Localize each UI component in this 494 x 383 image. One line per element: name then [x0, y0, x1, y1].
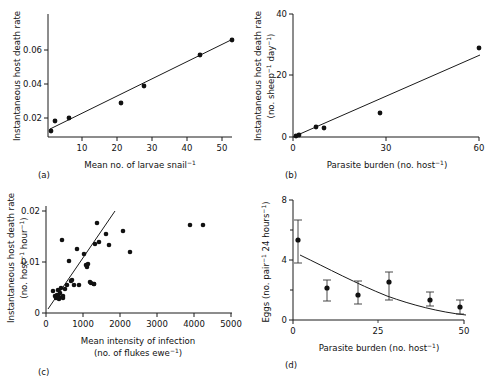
panel-d-datapoints [295, 237, 462, 309]
panel-a-ytick-1: 0.04 [23, 79, 42, 89]
panel-a-xtick-2: 30 [147, 143, 158, 153]
panel-a-ytick-0: 0.02 [23, 113, 42, 123]
panel-a-fit-line [50, 39, 233, 129]
panel-b-ylabel-l2c: ) [266, 34, 276, 37]
panel-c-xtick-4: 4000 [183, 319, 205, 329]
panel-d-ticklabels: 0 4 8 0 25 50 [282, 195, 470, 336]
panel-b-ytick-0: 0 [282, 132, 287, 142]
panel-c-ytick-0: 0 [35, 308, 40, 318]
panel-b: 0 20 40 0 30 60 Instantaneous host death… [247, 0, 494, 191]
panel-b-xlabel-end: ) [444, 160, 447, 170]
panel-a-ytick-2: 0.06 [23, 45, 42, 55]
panel-d-plot: 0 4 8 0 25 50 [247, 192, 494, 383]
panel-a-xtick-0: 10 [77, 143, 88, 153]
panel-b-ylabel-l2b: day [266, 46, 276, 65]
panel-c-ticklabels: 0 0.01 0.02 0 1000 2000 3000 4000 5000 [21, 206, 242, 329]
panel-b-ytick-1: 20 [276, 70, 287, 80]
panel-b-xlabel-sup: −1 [435, 159, 444, 166]
panel-d-ylabel: Eggs (no. pair−1 24 hours−1) [260, 201, 271, 322]
panel-b-ytick-2: 40 [276, 9, 287, 19]
panel-c-datapoints [51, 221, 206, 302]
panel-a: 0.02 0.04 0.06 10 20 30 40 50 Instantane… [0, 0, 247, 191]
panel-b-xtick-1: 30 [381, 143, 392, 153]
panel-d-ylabel-c: ) [261, 201, 271, 204]
panel-a-axes [44, 14, 232, 141]
panel-b-ylabel-line1: Instantaneous host death rate [253, 11, 263, 141]
panel-a-xlabel: Mean no. of larvae snail−1 [84, 159, 196, 170]
panel-b-xtick-2: 60 [474, 143, 485, 153]
panel-a-ylabel: Instantaneous host death rate [12, 11, 22, 141]
panel-b-ylabel-line2: (no. sheep−1 day−1) [265, 34, 276, 119]
panel-c-xtick-0: 0 [43, 319, 48, 329]
panel-a-plot: 0.02 0.04 0.06 10 20 30 40 50 Instantane… [0, 0, 247, 191]
panel-c-ytick-2: 0.02 [21, 206, 40, 216]
panel-a-xlabel-sup: −1 [187, 159, 196, 166]
panel-b-xlabel: Parasite burden (no. host−1) [327, 159, 447, 170]
panel-b-ylabel-sup1: −1 [265, 64, 272, 73]
panel-d-xtick-1: 25 [373, 326, 384, 336]
panel-c-plot: 0 0.01 0.02 0 1000 2000 3000 4000 5000 [0, 192, 247, 383]
panel-b-fit-line [293, 55, 480, 137]
panel-c-ylabel-l2b: hour [19, 229, 29, 252]
panel-d-xlabel-sup: −1 [427, 342, 436, 349]
panel-d-ytick-1: 4 [282, 255, 287, 265]
panel-b-ticklabels: 0 20 40 0 30 60 [276, 9, 484, 153]
panel-a-xtick-3: 40 [182, 143, 193, 153]
panel-d: 0 4 8 0 25 50 [247, 192, 494, 383]
panel-d-xtick-0: 0 [290, 326, 295, 336]
panel-c-ylabel-l2c: ) [19, 217, 29, 220]
panel-c-xtick-1: 1000 [72, 319, 94, 329]
panel-d-xlabel-end: ) [436, 343, 439, 353]
panel-d-errorbars [294, 220, 464, 314]
panel-d-xtick-2: 50 [459, 326, 470, 336]
panel-a-xtick-4: 50 [217, 143, 228, 153]
panel-b-plot: 0 20 40 0 30 60 Instantaneous host death… [247, 0, 494, 191]
panel-c: 0 0.01 0.02 0 1000 2000 3000 4000 5000 [0, 192, 247, 383]
panel-b-xlabel-main: Parasite burden (no. host [327, 160, 436, 170]
panel-c-xlabel-l2a: (no. of flukes ewe [94, 348, 170, 358]
panel-a-label: (a) [38, 170, 50, 180]
panel-c-xtick-3: 3000 [146, 319, 168, 329]
panel-c-ylabel-l2a: (no. host [19, 260, 29, 299]
panel-d-ylabel-sup2: −1 [260, 205, 267, 214]
panel-d-label: (d) [285, 360, 297, 370]
panel-c-xlabel-line2: (no. of flukes ewe−1) [94, 347, 182, 358]
panel-b-axes [289, 14, 479, 141]
panel-c-xtick-2: 2000 [109, 319, 131, 329]
panel-d-xlabel: Parasite burden (no. host−1) [319, 342, 439, 353]
panel-b-label: (b) [285, 170, 297, 180]
panel-c-xlabel-line1: Mean intensity of infection [81, 336, 195, 346]
panel-d-ytick-2: 8 [282, 195, 287, 205]
panel-c-ylabel-sup2: −1 [18, 220, 25, 229]
figure-four-panel: 0.02 0.04 0.06 10 20 30 40 50 Instantane… [0, 0, 494, 383]
panel-d-fit-curve [300, 255, 466, 315]
panel-a-xtick-1: 20 [112, 143, 123, 153]
panel-c-xtick-5: 5000 [220, 319, 242, 329]
panel-c-ylabel-line1: Instantaneous host death rate [6, 193, 16, 323]
panel-d-ylabel-a: Eggs (no. pair [261, 263, 271, 323]
panel-d-ylabel-b: 24 hours [261, 213, 271, 254]
panel-b-ylabel-l2a: (no. sheep [266, 73, 276, 118]
panel-c-xlabel-l2b: ) [179, 348, 182, 358]
panel-c-xlabel-sup: −1 [170, 347, 179, 354]
panel-c-ylabel-sup1: −1 [18, 252, 25, 261]
panel-d-xlabel-main: Parasite burden (no. host [319, 343, 428, 353]
panel-c-label: (c) [38, 367, 49, 377]
panel-b-xtick-0: 0 [290, 143, 295, 153]
panel-b-ylabel-sup2: −1 [265, 37, 272, 46]
panel-d-ylabel-sup1: −1 [260, 254, 267, 263]
panel-d-ytick-0: 0 [282, 315, 287, 325]
panel-a-xlabel-main: Mean no. of larvae snail [84, 160, 187, 170]
